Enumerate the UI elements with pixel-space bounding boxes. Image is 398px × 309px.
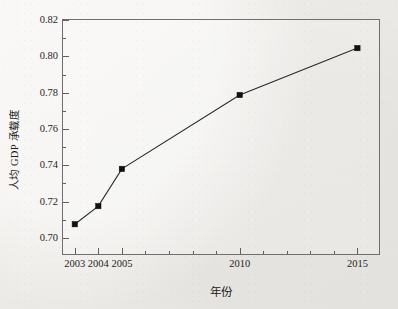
x-tick-label: 2015 [347, 259, 368, 270]
data-point-marker [355, 45, 360, 50]
x-tick-label: 2010 [229, 259, 250, 270]
x-tick-label: 2005 [111, 259, 132, 270]
y-tick-label: 0.76 [40, 124, 58, 135]
x-tick-label: 2004 [88, 259, 109, 270]
series-markers [72, 45, 360, 227]
data-point-marker [72, 222, 77, 227]
data-point-marker [96, 203, 101, 208]
y-axis-title: 人均 GDP 承载度 [6, 110, 21, 190]
y-tick-label: 0.82 [40, 15, 58, 26]
y-tick-label: 0.78 [40, 87, 58, 98]
data-point-marker [119, 166, 124, 171]
series-line [75, 48, 358, 224]
data-series-layer [63, 20, 381, 256]
x-axis-title: 年份 [210, 283, 233, 299]
plot-area: 0.700.720.740.760.780.800.82 20032004200… [62, 19, 380, 255]
y-tick-label: 0.80 [40, 51, 58, 62]
chart-figure: 人均 GDP 承载度 年份 0.700.720.740.760.780.800.… [0, 0, 398, 309]
x-tick-label: 2003 [64, 259, 85, 270]
data-point-marker [237, 92, 242, 97]
y-tick-label: 0.72 [40, 196, 58, 207]
y-tick-label: 0.70 [40, 233, 58, 244]
y-tick-label: 0.74 [40, 160, 58, 171]
